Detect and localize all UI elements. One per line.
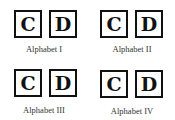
letter-box-d: D: [135, 10, 163, 38]
letter-box-d: D: [49, 69, 77, 97]
letter-box-d: D: [49, 10, 77, 38]
panel-alphabet-2: C D Alphabet II: [88, 0, 175, 60]
panel-alphabet-1: C D Alphabet I: [0, 0, 88, 60]
panel-label: Alphabet IV: [88, 106, 175, 116]
letter-box-c: C: [14, 69, 42, 97]
panel-label: Alphabet II: [88, 44, 175, 54]
panel-label: Alphabet I: [0, 44, 88, 54]
panel-alphabet-3: C D Alphabet III: [0, 59, 88, 119]
letter-box-d: D: [135, 70, 163, 98]
letter-box-c: C: [100, 10, 128, 38]
panel-alphabet-4: C D Alphabet IV: [88, 60, 175, 120]
letter-box-c: C: [14, 10, 42, 38]
panel-label: Alphabet III: [0, 105, 88, 115]
letter-box-c: C: [100, 70, 128, 98]
